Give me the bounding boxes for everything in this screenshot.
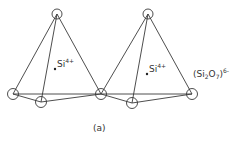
edge xyxy=(132,94,192,103)
left-tetrahedron xyxy=(13,14,101,102)
formula-label: (Si2O7)6- xyxy=(193,67,229,80)
right-tetrahedron xyxy=(101,14,192,103)
edge xyxy=(41,94,101,102)
silicon-dot xyxy=(146,73,148,75)
edge xyxy=(13,14,57,94)
silicon-left: Si4+ xyxy=(54,57,74,70)
edge xyxy=(57,14,101,94)
edge xyxy=(148,14,192,94)
edge xyxy=(101,94,132,103)
silicon-label: Si4+ xyxy=(149,62,166,74)
figure-caption: (a) xyxy=(93,123,106,133)
silicon-right: Si4+ xyxy=(146,62,166,75)
silicon-label: Si4+ xyxy=(57,57,74,69)
edge xyxy=(41,14,57,102)
pyrosilicate-diagram: Si4+ Si4+ (Si2O7)6- (a) xyxy=(0,0,239,161)
silicon-dot xyxy=(54,68,56,70)
